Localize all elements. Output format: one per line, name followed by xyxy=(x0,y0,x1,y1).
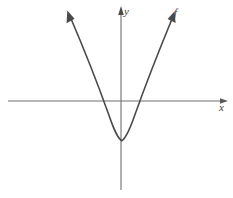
curve-label-f: f xyxy=(174,7,177,18)
y-axis-label: y xyxy=(124,6,129,17)
function-graph-figure: y x f xyxy=(0,0,233,198)
graph-canvas xyxy=(0,0,233,198)
x-axis-label: x xyxy=(219,102,224,113)
left-branch-arrowhead xyxy=(67,11,75,24)
y-axis-arrowhead xyxy=(118,6,124,15)
